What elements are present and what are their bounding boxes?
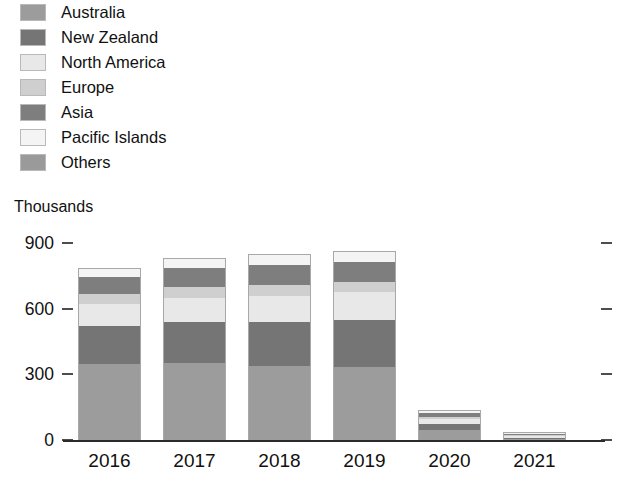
bar-segment[interactable] xyxy=(248,265,311,285)
bar-segment[interactable] xyxy=(333,367,396,440)
bar-segment[interactable] xyxy=(503,439,566,440)
bar-segment[interactable] xyxy=(163,363,226,440)
bar-segment[interactable] xyxy=(78,277,141,295)
y-axis-tick-mark-left xyxy=(62,373,73,375)
y-axis-tick-label: 0 xyxy=(8,430,54,451)
bar-segment[interactable] xyxy=(248,296,311,322)
bar-segment[interactable] xyxy=(333,262,396,283)
x-axis-tick-label: 2021 xyxy=(480,450,590,472)
y-axis-tick-mark-right xyxy=(601,373,612,375)
bar-segment[interactable] xyxy=(333,292,396,319)
stacked-bar[interactable] xyxy=(248,254,311,440)
bar-segment[interactable] xyxy=(248,255,311,265)
bar-segment[interactable] xyxy=(418,430,481,440)
bar-segment[interactable] xyxy=(78,294,141,304)
bar-segment[interactable] xyxy=(333,320,396,367)
y-axis-tick-mark-left xyxy=(62,242,73,244)
bar-segment[interactable] xyxy=(78,304,141,326)
stacked-bar[interactable] xyxy=(418,410,481,440)
bar-segment[interactable] xyxy=(78,364,141,440)
bar-segment[interactable] xyxy=(333,282,396,292)
bar-segment[interactable] xyxy=(163,287,226,298)
bar-segment[interactable] xyxy=(163,268,226,287)
y-axis-tick-mark-right xyxy=(601,308,612,310)
y-axis-tick-label: 900 xyxy=(8,233,54,254)
stacked-bar[interactable] xyxy=(163,258,226,440)
bar-segment[interactable] xyxy=(248,322,311,366)
y-axis-tick-label: 600 xyxy=(8,298,54,319)
bar-segment[interactable] xyxy=(163,259,226,268)
bar-segment[interactable] xyxy=(248,285,311,296)
stacked-bar[interactable] xyxy=(503,432,566,440)
bar-segment[interactable] xyxy=(248,366,311,440)
bar-segment[interactable] xyxy=(163,322,226,364)
bar-segment[interactable] xyxy=(163,298,226,322)
stacked-bar[interactable] xyxy=(333,251,396,440)
bar-segment[interactable] xyxy=(78,269,141,277)
y-axis-tick-mark-left xyxy=(62,308,73,310)
stacked-bar[interactable] xyxy=(78,268,141,440)
x-axis-baseline xyxy=(63,440,605,442)
y-axis-tick-label: 300 xyxy=(8,364,54,385)
bar-segment[interactable] xyxy=(333,252,396,262)
bar-segment[interactable] xyxy=(78,326,141,364)
y-axis-tick-mark-right xyxy=(601,242,612,244)
stacked-bar-chart-plot: 0300600900 201620172018201920202021 xyxy=(0,0,619,490)
